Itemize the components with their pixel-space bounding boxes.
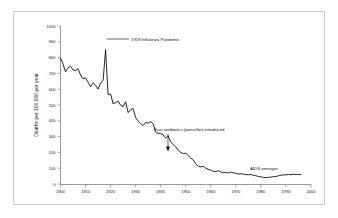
y-tick-label: 500	[49, 103, 57, 108]
x-tick-labels: 1900 1910 1920 1930 1940 1950 1960 1970 …	[56, 189, 316, 194]
aids-annotation-label: AIDS emerges	[250, 166, 278, 171]
y-tick-marks	[58, 26, 61, 184]
penicillin-arrow-head	[166, 147, 170, 152]
penicillin-annotation-label: First antibiotics (penicillin) introduce…	[154, 127, 225, 132]
mortality-data-line	[61, 50, 301, 178]
y-tick-label: 800	[49, 55, 57, 60]
influenza-annotation-label: 1918 Influenza Pandemic	[131, 37, 180, 42]
y-tick-label: 1000	[46, 24, 56, 29]
x-tick-label: 1940	[156, 189, 166, 194]
y-axis-title: Deaths per 100,000 per year	[33, 73, 39, 137]
y-tick-label: 600	[49, 87, 57, 92]
annotation-aids: AIDS emerges	[250, 166, 278, 171]
y-tick-label: 0	[53, 182, 56, 187]
y-tick-label: 300	[49, 134, 57, 139]
y-tick-label: 700	[49, 71, 57, 76]
annotation-influenza: 1918 Influenza Pandemic	[107, 37, 181, 42]
infectious-disease-mortality-chart: 0 100 200 300 400 500 600 700 800 900 10…	[0, 0, 338, 218]
x-tick-label: 1900	[56, 189, 66, 194]
x-tick-marks	[61, 185, 312, 188]
y-tick-labels: 0 100 200 300 400 500 600 700 800 900 10…	[46, 24, 56, 187]
x-tick-label: 1910	[81, 189, 91, 194]
annotation-penicillin: First antibiotics (penicillin) introduce…	[154, 127, 225, 152]
x-tick-label: 2000	[306, 189, 316, 194]
y-tick-label: 100	[49, 166, 57, 171]
y-tick-label: 400	[49, 118, 57, 123]
x-tick-label: 1990	[281, 189, 291, 194]
y-tick-label: 200	[49, 150, 57, 155]
x-tick-label: 1930	[131, 189, 141, 194]
x-tick-label: 1960	[206, 189, 216, 194]
figure-container: 0 100 200 300 400 500 600 700 800 900 10…	[0, 0, 338, 218]
x-tick-label: 1950	[181, 189, 191, 194]
x-tick-label: 1980	[256, 189, 266, 194]
y-tick-label: 900	[49, 39, 57, 44]
x-tick-label: 1920	[106, 189, 116, 194]
x-tick-label: 1970	[231, 189, 241, 194]
